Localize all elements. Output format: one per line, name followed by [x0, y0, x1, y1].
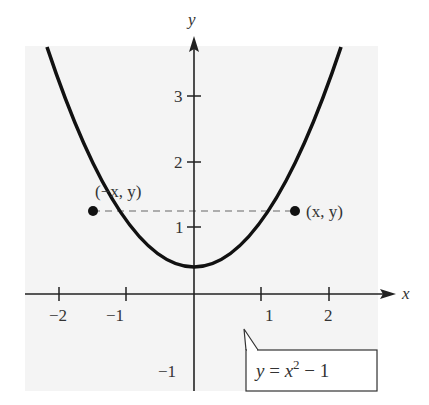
x-tick-label: −1	[106, 306, 124, 325]
point-left-label: (−x, y)	[95, 182, 141, 201]
svg-text:y = x2 − 1: y = x2 − 1	[254, 357, 329, 381]
x-axis-label: x	[401, 284, 410, 303]
point-right-label: (x, y)	[306, 202, 343, 221]
y-tick-label: 2	[174, 153, 183, 172]
x-tick-label: 1	[265, 306, 274, 325]
point-left	[88, 206, 98, 216]
y-axis-label: y	[186, 10, 196, 29]
x-tick-label: 2	[324, 306, 333, 325]
parabola-chart: −2 −1 1 2 3 2 1 −1 y x (−x, y) (x, y) y …	[0, 0, 429, 405]
point-right	[290, 206, 300, 216]
y-tick-label: 1	[175, 218, 184, 237]
y-tick-label: −1	[158, 362, 176, 381]
y-tick-label: 3	[174, 87, 183, 106]
x-tick-label: −2	[49, 306, 67, 325]
